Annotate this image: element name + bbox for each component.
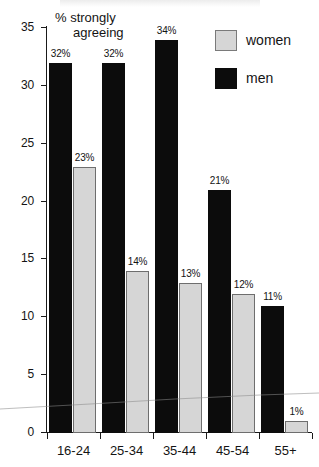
x-tick-3 bbox=[206, 433, 207, 439]
x-tick-1 bbox=[100, 433, 101, 439]
bar-value-label-women-45-54: 12% bbox=[228, 280, 259, 290]
x-tick-2 bbox=[153, 433, 154, 439]
category-label-55+: 55+ bbox=[254, 444, 317, 458]
bar-chart: % strongly agreeing women men 0510152025… bbox=[0, 0, 319, 467]
bar-women-16-24 bbox=[73, 167, 96, 433]
bar-value-label-men-55+: 11% bbox=[257, 292, 288, 302]
bar-men-25-34 bbox=[102, 63, 125, 433]
bar-value-label-men-45-54: 21% bbox=[204, 176, 235, 186]
bar-value-label-men-25-34: 32% bbox=[98, 49, 129, 59]
x-tick-4 bbox=[259, 433, 260, 439]
bar-men-45-54 bbox=[208, 190, 231, 433]
bar-value-label-women-16-24: 23% bbox=[69, 153, 100, 163]
bar-men-35-44 bbox=[155, 40, 178, 433]
bar-value-label-women-55+: 1% bbox=[281, 407, 312, 417]
bar-value-label-women-25-34: 14% bbox=[122, 257, 153, 267]
bar-women-35-44 bbox=[179, 283, 202, 433]
bars-layer bbox=[0, 0, 319, 433]
x-tick-5 bbox=[312, 433, 313, 439]
bar-women-45-54 bbox=[232, 294, 255, 433]
bar-women-55+ bbox=[285, 421, 308, 433]
bar-men-16-24 bbox=[49, 63, 72, 433]
bar-value-label-women-35-44: 13% bbox=[175, 269, 206, 279]
x-tick-0 bbox=[47, 433, 48, 439]
bar-value-label-men-35-44: 34% bbox=[151, 26, 182, 36]
bar-women-25-34 bbox=[126, 271, 149, 433]
bar-value-label-men-16-24: 32% bbox=[45, 49, 76, 59]
